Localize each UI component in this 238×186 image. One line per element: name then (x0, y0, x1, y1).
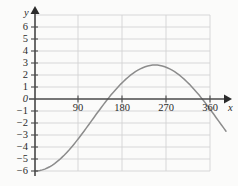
y-tick-label-neg-2: −2 (8, 118, 28, 129)
y-tick-label-neg-6: −6 (8, 166, 28, 177)
y-axis-label: y (24, 8, 29, 19)
y-axis-arrowhead (31, 6, 40, 14)
x-tick-label-360: 360 (197, 103, 223, 114)
chart-figure: 6 5 4 3 2 1 0 −1 −2 −3 −4 −5 −6 90 180 2… (0, 0, 238, 186)
y-tick-label-5: 5 (12, 34, 28, 45)
y-tick-label-neg-4: −4 (8, 142, 28, 153)
x-tick-label-270: 270 (153, 103, 179, 114)
chart-plot-area (0, 0, 238, 186)
x-tick-label-90: 90 (66, 103, 90, 114)
x-tick-label-180: 180 (109, 103, 135, 114)
y-tick-label-3: 3 (12, 58, 28, 69)
y-tick-label-1: 1 (12, 82, 28, 93)
y-tick-label-neg-3: −3 (8, 130, 28, 141)
x-axis-label: x (228, 103, 233, 114)
y-tick-label-6: 6 (12, 22, 28, 33)
y-tick-label-0: 0 (12, 94, 28, 105)
y-tick-label-2: 2 (12, 70, 28, 81)
y-tick-label-neg-1: −1 (8, 106, 28, 117)
y-tick-label-neg-5: −5 (8, 154, 28, 165)
cosine-curve (35, 65, 226, 171)
vertical-gridlines (35, 15, 210, 171)
y-tick-label-4: 4 (12, 46, 28, 57)
